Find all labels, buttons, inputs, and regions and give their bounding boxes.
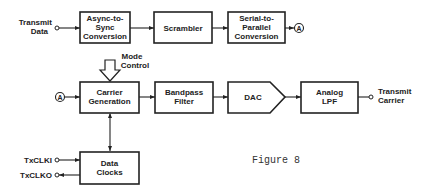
svg-text:A: A [296, 25, 301, 32]
hollow-down-arrow-icon [100, 60, 120, 81]
block-data-clocks: Data Clocks [80, 152, 139, 184]
transmit-data-input: Transmit Data [19, 18, 80, 36]
svg-text:Filter: Filter [174, 97, 194, 106]
terminal-circle-icon [369, 95, 373, 99]
svg-text:Serial-to-: Serial-to- [239, 14, 274, 23]
terminal-circle-icon [55, 158, 59, 162]
transmit-data-label-line1: Transmit [19, 18, 53, 27]
svg-text:Generation: Generation [88, 97, 130, 106]
svg-text:Async-to-: Async-to- [87, 14, 124, 23]
svg-text:Data: Data [101, 159, 119, 168]
svg-text:TxCLKO: TxCLKO [20, 171, 52, 180]
terminal-circle-icon [55, 173, 59, 177]
txclko-output: TxCLKO [20, 171, 80, 180]
txclki-input: TxCLKI [24, 156, 80, 165]
svg-text:A: A [57, 94, 62, 101]
transmit-carrier-label-line1: Transmit [378, 87, 412, 96]
svg-text:DAC: DAC [244, 93, 262, 102]
block-carrier-generation: Carrier Generation [80, 82, 139, 113]
block-diagram: Transmit Data Async-to- Sync Conversion … [0, 0, 429, 196]
block-bandpass-filter: Bandpass Filter [155, 82, 213, 113]
svg-text:Sync: Sync [95, 23, 115, 32]
svg-text:Carrier: Carrier [96, 88, 122, 97]
svg-text:Scrambler: Scrambler [163, 24, 202, 33]
transmit-carrier-output: Transmit Carrier [369, 87, 412, 105]
transmit-data-label-line2: Data [31, 27, 49, 36]
svg-text:Conversion: Conversion [83, 32, 127, 41]
connector-a-in: A [56, 93, 65, 102]
block-dac: DAC [228, 82, 285, 113]
block-scrambler: Scrambler [154, 12, 212, 43]
block-serial-to-parallel: Serial-to- Parallel Conversion [228, 12, 285, 43]
svg-text:TxCLKI: TxCLKI [24, 156, 52, 165]
svg-text:Analog: Analog [316, 88, 343, 97]
connector-a-out: A [295, 24, 304, 33]
svg-text:Conversion: Conversion [234, 32, 278, 41]
transmit-carrier-label-line2: Carrier [378, 96, 404, 105]
block-analog-lpf: Analog LPF [301, 82, 358, 113]
svg-text:Clocks: Clocks [96, 168, 123, 177]
mode-control-label-line2: Control [121, 61, 149, 70]
svg-text:LPF: LPF [322, 97, 337, 106]
svg-text:Parallel: Parallel [242, 23, 270, 32]
mode-control-input: Mode Control [100, 52, 149, 81]
block-async-to-sync: Async-to- Sync Conversion [80, 12, 130, 43]
figure-caption: Figure 8 [252, 155, 300, 166]
mode-control-label-line1: Mode [122, 52, 143, 61]
svg-text:Bandpass: Bandpass [165, 88, 204, 97]
terminal-circle-icon [55, 26, 59, 30]
